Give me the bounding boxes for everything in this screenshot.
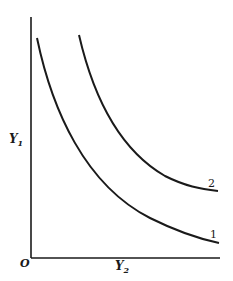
- y-axis-label: Y1: [9, 132, 23, 148]
- curve-2-label: 2: [208, 177, 215, 190]
- curve-2: [79, 35, 218, 191]
- x-axis-label: Y2: [115, 259, 130, 275]
- origin-label: O: [20, 257, 30, 270]
- curve-1-label: 1: [210, 228, 217, 241]
- diagram-canvas: Y1 Y2 O 2 1: [0, 0, 233, 281]
- curve-1: [37, 38, 219, 243]
